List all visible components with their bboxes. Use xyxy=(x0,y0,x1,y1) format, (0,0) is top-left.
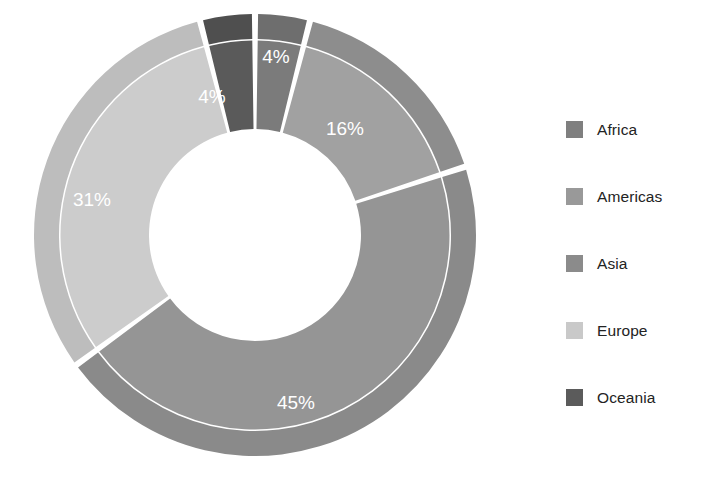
slice-label-europe: 31% xyxy=(73,189,111,210)
legend-item-asia[interactable]: Asia xyxy=(566,230,706,297)
legend-label-americas: Americas xyxy=(597,188,662,206)
chart-page: 4%16%45%31%4% Africa Americas Asia Europ… xyxy=(0,0,711,498)
donut-slice-ring-africa[interactable] xyxy=(258,14,307,44)
legend-swatch-asia xyxy=(566,255,583,272)
legend-item-africa[interactable]: Africa xyxy=(566,96,706,163)
legend-label-africa: Africa xyxy=(597,121,637,139)
donut-chart: 4%16%45%31%4% xyxy=(0,0,520,498)
slice-label-americas: 16% xyxy=(326,118,364,139)
slice-label-africa: 4% xyxy=(262,46,290,67)
legend-swatch-europe xyxy=(566,322,583,339)
legend-swatch-americas xyxy=(566,188,583,205)
legend-label-europe: Europe xyxy=(597,322,648,340)
slice-label-oceania: 4% xyxy=(198,86,226,107)
legend-swatch-oceania xyxy=(566,389,583,406)
donut-chart-svg: 4%16%45%31%4% xyxy=(0,0,520,498)
donut-slice-ring-oceania[interactable] xyxy=(203,14,252,44)
slice-label-asia: 45% xyxy=(277,392,315,413)
legend-item-americas[interactable]: Americas xyxy=(566,163,706,230)
legend-label-oceania: Oceania xyxy=(597,389,655,407)
legend-item-europe[interactable]: Europe xyxy=(566,297,706,364)
chart-legend: Africa Americas Asia Europe Oceania xyxy=(566,96,706,431)
legend-swatch-africa xyxy=(566,121,583,138)
legend-label-asia: Asia xyxy=(597,255,628,273)
legend-item-oceania[interactable]: Oceania xyxy=(566,364,706,431)
donut-slice-group xyxy=(34,14,476,456)
